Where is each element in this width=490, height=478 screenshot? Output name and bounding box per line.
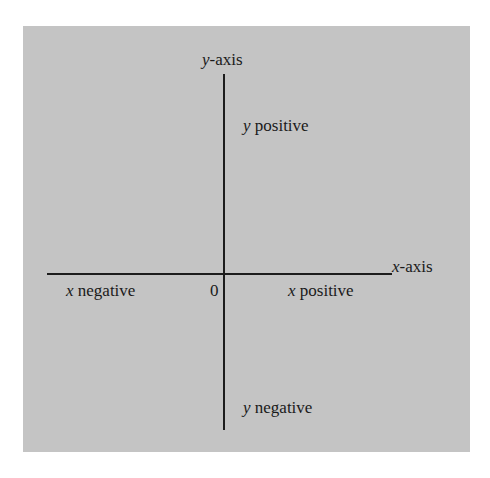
y-axis-line — [223, 74, 225, 430]
x-negative-label: x negative — [66, 282, 135, 299]
y-axis-label: y-axis — [202, 51, 243, 68]
x-axis-label: x-axis — [392, 258, 433, 275]
x-axis-line — [47, 273, 392, 275]
origin-label: 0 — [210, 282, 219, 299]
y-negative-label: y negative — [243, 399, 312, 416]
y-positive-label: y positive — [243, 117, 309, 134]
diagram-panel — [23, 26, 470, 452]
x-positive-label: x positive — [288, 282, 354, 299]
